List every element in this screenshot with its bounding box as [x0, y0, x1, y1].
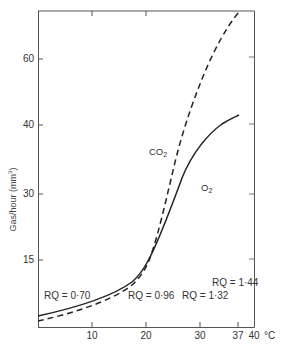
y-axis-label-end: ) [8, 168, 18, 171]
o2-label: O2 [201, 183, 212, 194]
y-tick-label-15: 15 [14, 255, 34, 265]
co2-label-text: CO [149, 146, 163, 157]
x-tick-label-20: 20 [136, 331, 156, 341]
rq-annotation-070: RQ = 0·70 [44, 291, 90, 301]
x-tick-label-40: 40 [244, 331, 264, 341]
co2-label: CO2 [149, 147, 167, 158]
rq-annotation-132: RQ = 1·32 [182, 291, 228, 301]
y-tick-label-40: 40 [14, 120, 34, 130]
x-ticks [92, 322, 238, 327]
x-axis-unit: °C [264, 331, 275, 341]
co2-label-sub: 2 [163, 151, 167, 158]
x-tick-label-30: 30 [190, 331, 210, 341]
y-tick-label-60: 60 [14, 54, 34, 64]
y-tick-label-30: 30 [14, 189, 34, 199]
y-axis-label: Gas/hour (mm3) [7, 155, 18, 245]
y-ticks-right [249, 57, 254, 259]
rq-annotation-096: RQ = 0·96 [128, 291, 174, 301]
x-tick-label-10: 10 [82, 331, 102, 341]
o2-label-sub: 2 [208, 187, 212, 194]
rq-annotation-144: RQ = 1·44 [212, 278, 258, 288]
y-axis-label-sup: 3 [7, 171, 13, 174]
y-axis-label-text: Gas/hour (mm [8, 174, 18, 232]
o2-curve [38, 115, 239, 316]
x-ticks-top [92, 11, 146, 16]
